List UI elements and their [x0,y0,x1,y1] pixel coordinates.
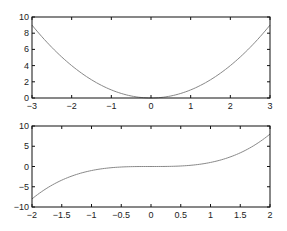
x-tick-label: −0.5 [112,210,130,220]
y-tick-label: 6 [24,44,29,54]
y-tick-label: 10 [19,121,29,131]
y-tick-label: −10 [14,202,29,212]
y-tick-label: 4 [24,61,29,71]
x-tick-label: 1 [208,210,213,220]
x-tick-label: 0.5 [174,210,187,220]
x-tick-label: 3 [267,101,272,111]
y-tick-label: 5 [24,141,29,151]
x-tick-label: 0 [148,210,153,220]
x-tick-label: 2 [267,210,272,220]
axes-box [32,17,270,98]
x-tick-label: −1 [106,101,116,111]
x-tick-label: −1 [86,210,96,220]
x-tick-label: 0 [148,101,153,111]
y-tick-label: 8 [24,28,29,38]
x-tick-label: 2 [228,101,233,111]
top-plot-parabola: −3−2−101230246810 [19,12,273,111]
bottom-plot-cubic: −2−1.5−1−0.500.511.52−10−50510 [14,121,273,220]
series-line [32,134,270,199]
y-tick-label: −5 [19,182,29,192]
x-tick-label: 1 [188,101,193,111]
x-tick-label: −2 [67,101,77,111]
y-tick-label: 0 [24,162,29,172]
x-tick-label: −1.5 [53,210,71,220]
figure: −3−2−101230246810 −2−1.5−1−0.500.511.52−… [0,0,287,231]
series-line [32,25,270,98]
x-tick-label: 1.5 [234,210,247,220]
y-tick-label: 2 [24,77,29,87]
y-tick-label: 0 [24,93,29,103]
y-tick-label: 10 [19,12,29,22]
